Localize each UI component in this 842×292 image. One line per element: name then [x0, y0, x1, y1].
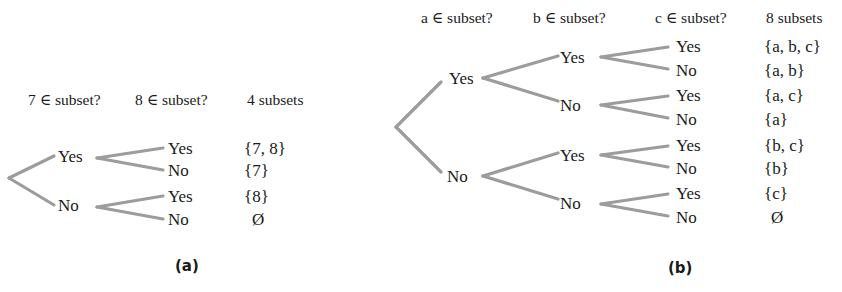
leaf: Yes: [676, 137, 701, 154]
header-count: 4 subsets: [247, 92, 303, 108]
leaf: Yes: [168, 188, 193, 205]
node-no: No: [560, 97, 581, 114]
subset: {b, c}: [764, 137, 805, 154]
subset: Ø: [771, 209, 783, 226]
header-8: 8 ∈ subset?: [135, 92, 208, 108]
subset: {a, b, c}: [764, 38, 821, 55]
subset: {a, c}: [764, 87, 804, 104]
node-no: No: [58, 197, 79, 214]
caption-b: (b): [668, 259, 692, 277]
subset: {a, b}: [764, 62, 805, 79]
subset: {7}: [244, 162, 269, 179]
header-b: b ∈ subset?: [533, 10, 606, 26]
leaf: Yes: [676, 87, 701, 104]
header-a: a ∈ subset?: [421, 10, 493, 26]
subset: {a}: [764, 111, 788, 128]
leaf: Yes: [168, 140, 193, 157]
subset: {7, 8}: [244, 140, 286, 157]
subset: {c}: [764, 185, 788, 202]
leaf: No: [676, 160, 697, 177]
node-no: No: [560, 195, 581, 212]
leaf: No: [168, 162, 189, 179]
node-yes: Yes: [560, 49, 585, 66]
node-no: No: [447, 168, 468, 185]
header-7: 7 ∈ subset?: [28, 92, 101, 108]
node-yes: Yes: [449, 70, 474, 87]
leaf: No: [676, 62, 697, 79]
leaf: Yes: [676, 185, 701, 202]
header-count: 8 subsets: [766, 10, 822, 26]
tree-branches: [0, 0, 842, 292]
subset: {b}: [764, 160, 789, 177]
subset: {8}: [244, 188, 269, 205]
caption-a: (a): [175, 257, 199, 275]
node-yes: Yes: [58, 148, 83, 165]
node-yes: Yes: [560, 147, 585, 164]
leaf: No: [168, 211, 189, 228]
subset: Ø: [252, 211, 264, 228]
header-c: c ∈ subset?: [655, 10, 727, 26]
leaf: Yes: [676, 38, 701, 55]
leaf: No: [676, 209, 697, 226]
leaf: No: [676, 111, 697, 128]
